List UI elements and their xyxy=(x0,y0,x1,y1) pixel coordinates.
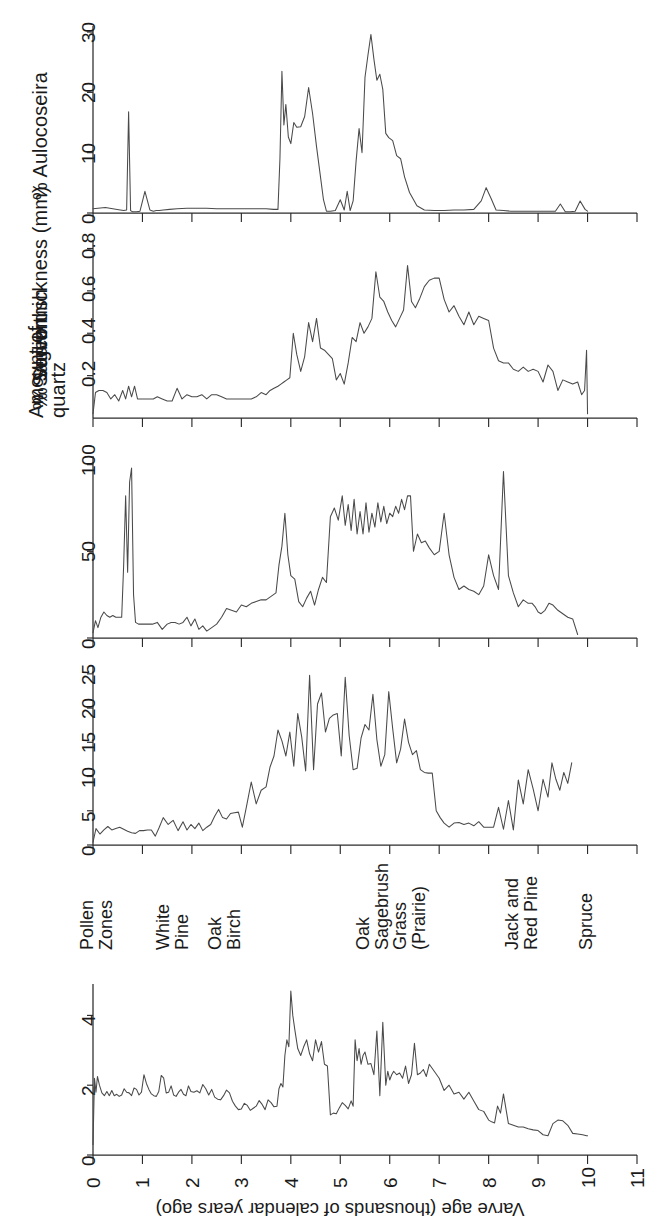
x-tick-label-3: 3 xyxy=(232,1177,253,1188)
panel-aulocoseira xyxy=(0,0,662,1230)
pollen-zone-1: Oak Birch xyxy=(206,909,243,950)
y-tick-label-sagebrush-5: 25 xyxy=(79,664,100,685)
plot-varve_thickness xyxy=(0,0,662,1230)
data-curve-aulocoseira xyxy=(93,34,588,211)
x-tick-label-8: 8 xyxy=(480,1177,501,1188)
axis-title-aulocoseira: % Aulocoseira xyxy=(30,72,52,200)
y-tick-label-aulocoseira-2: 20 xyxy=(79,82,100,103)
y-tick-label-varve_thickness-1: 2 xyxy=(79,1086,100,1097)
y-tick-label-quartz-0: 0 xyxy=(79,638,100,649)
y-tick-label-quartz-1: 50 xyxy=(79,541,100,562)
y-tick-label-sagebrush-1: 5 xyxy=(79,811,100,822)
panel-sodium xyxy=(0,0,662,1230)
y-tick-label-sodium-2: 0.6 xyxy=(79,275,100,301)
pollen-zone-3: Jack and Red Pine xyxy=(503,876,540,950)
y-tick-label-sagebrush-0: 0 xyxy=(79,845,100,856)
y-tick-label-sodium-3: 0.8 xyxy=(79,233,100,259)
panel-varve_thickness xyxy=(0,0,662,1230)
y-tick-label-varve_thickness-0: 0 xyxy=(79,1155,100,1166)
pollen-zone-2: Oak Sagebrush Grass (Prairie) xyxy=(354,863,429,950)
plot-quartz xyxy=(0,0,662,1230)
y-tick-label-sodium-1: 0.4 xyxy=(79,318,100,344)
x-axis-title: Varve age (thousands of calendar years a… xyxy=(120,1198,560,1220)
pollen-zone-0: White Pine xyxy=(154,904,191,950)
x-tick-label-7: 7 xyxy=(430,1177,451,1188)
data-curve-sagebrush xyxy=(93,675,572,842)
plot-aulocoseira xyxy=(0,0,662,1230)
x-tick-label-5: 5 xyxy=(331,1177,352,1188)
pollen-zones-header: Pollen Zones xyxy=(78,900,115,950)
data-curve-quartz xyxy=(93,468,578,634)
x-tick-label-2: 2 xyxy=(183,1177,204,1188)
plot-sodium xyxy=(0,0,662,1230)
y-tick-label-quartz-2: 100 xyxy=(79,444,100,476)
axis-title-varve_thickness: Varve thickness (mm) xyxy=(30,186,52,380)
plot-sagebrush xyxy=(0,0,662,1230)
y-tick-label-sodium-0: 0.2 xyxy=(79,360,100,386)
y-tick-label-sagebrush-3: 15 xyxy=(79,732,100,753)
y-tick-label-aulocoseira-0: 0 xyxy=(79,213,100,224)
x-tick-label-6: 6 xyxy=(381,1177,402,1188)
x-tick-label-1: 1 xyxy=(133,1177,154,1188)
x-tick-label-9: 9 xyxy=(529,1177,550,1188)
data-curve-varve_thickness xyxy=(93,991,588,1145)
stratigraphic-figure: 0102030% Aulocoseira0.20.40.60.8% Sodium… xyxy=(0,0,662,1230)
pollen-zone-4: Spruce xyxy=(577,893,596,950)
y-tick-label-aulocoseira-3: 30 xyxy=(79,22,100,43)
y-tick-label-varve_thickness-2: 4 xyxy=(79,1016,100,1027)
x-tick-label-10: 10 xyxy=(579,1167,600,1188)
x-tick-label-4: 4 xyxy=(282,1177,303,1188)
x-tick-label-0: 0 xyxy=(84,1177,105,1188)
panel-sagebrush xyxy=(0,0,662,1230)
y-tick-label-sagebrush-4: 20 xyxy=(79,698,100,719)
y-tick-label-sagebrush-2: 10 xyxy=(79,766,100,787)
data-curve-sodium xyxy=(93,265,588,413)
panel-quartz xyxy=(0,0,662,1230)
x-tick-label-11: 11 xyxy=(628,1168,649,1188)
y-tick-label-aulocoseira-1: 10 xyxy=(79,143,100,164)
